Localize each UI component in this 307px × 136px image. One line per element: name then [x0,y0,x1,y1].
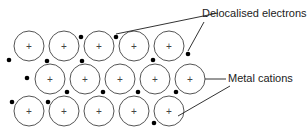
electron-dot [46,100,51,105]
plus-sign: + [61,106,67,117]
plus-sign: + [61,41,67,52]
electron-dot [101,90,106,95]
plus-sign: + [187,74,193,85]
electrons-pointer-2 [188,22,204,51]
plus-sign: + [131,41,137,52]
plus-sign: + [152,74,158,85]
electron-dot [7,58,12,63]
plus-sign: + [96,106,102,117]
metal-cations-label: Metal cations [228,72,293,84]
plus-sign: + [166,41,172,52]
electron-dot [80,59,85,64]
electron-dot [136,90,141,95]
metal-cations: +++++++++++++++ [14,31,205,126]
electron-dot [114,35,119,40]
plus-sign: + [166,106,172,117]
electron-dot [151,58,156,63]
electron-dot [65,90,70,95]
metallic-bonding-diagram: +++++++++++++++ [0,0,307,136]
plus-sign: + [47,74,53,85]
electron-dot [186,52,191,57]
plus-sign: + [96,41,102,52]
plus-sign: + [117,74,123,85]
electron-dot [152,121,157,126]
plus-sign: + [26,41,32,52]
electron-dot [25,76,30,81]
plus-sign: + [82,74,88,85]
delocalised-electrons-label: Delocalised electrons [202,7,307,19]
electron-dot [10,100,15,105]
plus-sign: + [131,106,137,117]
electron-dot [45,59,50,64]
electron-dot [79,35,84,40]
electron-dot [174,90,179,95]
plus-sign: + [26,106,32,117]
